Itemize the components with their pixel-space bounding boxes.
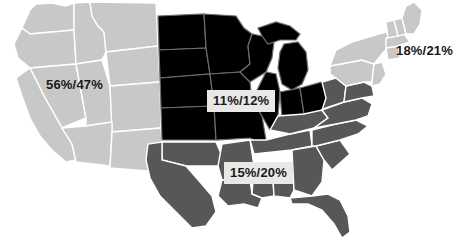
state-oregon: [14, 28, 76, 68]
state-north-dakota: [158, 14, 206, 50]
us-map-graphic: [0, 0, 455, 244]
state-new-jersey: [372, 62, 386, 86]
state-minnesota: [204, 14, 252, 74]
region-label-northeast: 18%/21%: [396, 44, 453, 57]
state-georgia: [292, 146, 324, 196]
state-nebraska: [160, 74, 214, 108]
region-label-midwest: 11%/12%: [207, 90, 275, 112]
region-label-south: 15%/20%: [224, 162, 293, 184]
state-wyoming: [106, 46, 160, 86]
state-south-dakota: [159, 48, 210, 78]
state-maine: [402, 2, 422, 34]
state-washington: [22, 3, 74, 34]
region-label-west: 56%/47%: [46, 78, 103, 91]
state-florida: [290, 194, 350, 238]
state-colorado: [110, 82, 161, 132]
us-regional-percentage-map: 56%/47% 11%/12% 15%/20% 18%/21%: [0, 0, 455, 244]
state-michigan-lower-peninsula: [278, 42, 308, 90]
